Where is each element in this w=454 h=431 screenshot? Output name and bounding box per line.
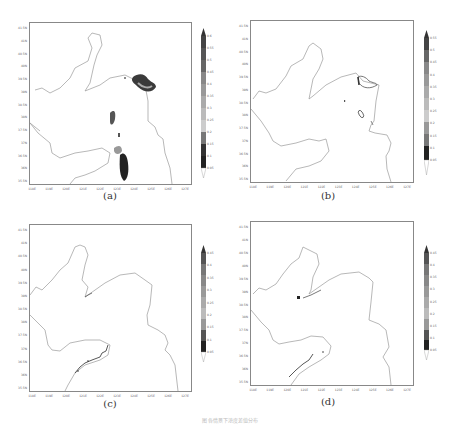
y-tick-label: 41N: [13, 39, 27, 43]
colorbar-label: 0.25: [430, 109, 437, 113]
colorbar-label: 0.25: [207, 301, 214, 305]
colorbar-label: 0.05: [430, 158, 437, 162]
y-tick-label: 37.5N: [13, 128, 27, 132]
y-tick-label: 36N: [234, 367, 248, 371]
x-tick-label: 124E: [350, 388, 362, 392]
x-tick-label: 125E: [367, 185, 379, 189]
y-tick-label: 35.5N: [234, 380, 248, 384]
y-tick-label: 38N: [234, 113, 248, 117]
x-tick-label: 121E: [77, 187, 89, 191]
y-tick-label: 40N: [13, 268, 27, 272]
coastline-map-c: [30, 225, 191, 391]
colorbar-label: 0.2: [430, 312, 435, 316]
x-tick-label: 122E: [94, 187, 106, 191]
x-tick-label: 127E: [401, 388, 413, 392]
y-tick-label: 37N: [13, 141, 27, 145]
x-tick-label: 119E: [264, 185, 276, 189]
y-tick-label: 37.5N: [13, 333, 27, 337]
y-tick-label: 37N: [234, 341, 248, 345]
colorbar-label: 0.45: [207, 70, 214, 74]
y-tick-label: 38N: [13, 115, 27, 119]
colorbar-label: 0.3: [430, 97, 435, 101]
x-tick-label: 126E: [384, 388, 396, 392]
x-tick-label: 122E: [315, 185, 327, 189]
colorbar-label: 0.05: [430, 348, 437, 352]
colorbar-label: 0.5: [430, 48, 435, 52]
colorbar-label: 0.15: [207, 325, 214, 329]
y-tick-label: 40N: [13, 64, 27, 68]
y-tick-label: 41N: [234, 238, 248, 242]
panel-label-b: (b): [308, 190, 348, 201]
y-tick-label: 36.5N: [234, 152, 248, 156]
y-tick-label: 36N: [13, 166, 27, 170]
y-tick-label: 37N: [234, 139, 248, 143]
y-tick-label: 35.5N: [234, 177, 248, 181]
colorbar-label: 0.4: [207, 263, 212, 267]
colorbar-label: 0.2: [207, 313, 212, 317]
colorbar-label: 0.35: [207, 276, 214, 280]
x-tick-label: 127E: [179, 187, 191, 191]
x-tick-label: 118E: [26, 187, 38, 191]
map-plot-a: [29, 22, 192, 185]
coastline-map-b: [251, 21, 413, 182]
y-tick-label: 38.5N: [234, 303, 248, 307]
x-tick-label: 124E: [350, 185, 362, 189]
y-tick-label: 36.5N: [13, 154, 27, 158]
x-tick-label: 126E: [384, 185, 396, 189]
panel-b: (b): [228, 0, 454, 210]
map-plot-b: [250, 20, 414, 183]
y-tick-label: 35.5N: [13, 386, 27, 390]
x-tick-label: 125E: [367, 388, 379, 392]
colorbar-label: 0.35: [207, 94, 214, 98]
colorbar-label: 0.6: [207, 34, 212, 38]
y-tick-label: 40.5N: [13, 254, 27, 258]
colorbar-label: 0.4: [430, 263, 435, 267]
y-tick-label: 40N: [234, 62, 248, 66]
y-tick-label: 40N: [234, 264, 248, 268]
colorbar-label: 0.2: [207, 130, 212, 134]
x-tick-label: 123E: [111, 187, 123, 191]
x-tick-label: 119E: [43, 187, 55, 191]
y-tick-label: 35.5N: [13, 179, 27, 183]
colorbar-label: 0.4: [430, 73, 435, 77]
y-tick-label: 37.5N: [234, 328, 248, 332]
x-tick-label: 126E: [162, 394, 174, 398]
y-tick-label: 38.5N: [13, 307, 27, 311]
y-tick-label: 37N: [13, 347, 27, 351]
panel-c: (c): [0, 210, 228, 410]
y-tick-label: 40.5N: [234, 50, 248, 54]
y-tick-label: 40.5N: [13, 52, 27, 56]
y-tick-label: 41N: [234, 37, 248, 41]
y-tick-label: 38N: [13, 320, 27, 324]
colorbar-label: 0.45: [430, 60, 437, 64]
x-tick-label: 125E: [145, 394, 157, 398]
coastline-map-a: [30, 23, 191, 184]
colorbar-label: 0.15: [430, 324, 437, 328]
y-tick-label: 39.5N: [13, 77, 27, 81]
colorbar-label: 0.45: [207, 251, 214, 255]
y-tick-label: 41.5N: [234, 225, 248, 229]
y-tick-label: 37.5N: [234, 126, 248, 130]
y-tick-label: 39.5N: [234, 277, 248, 281]
x-tick-label: 120E: [281, 388, 293, 392]
colorbar-d: [424, 245, 429, 360]
x-tick-label: 123E: [333, 388, 345, 392]
x-tick-label: 121E: [298, 388, 310, 392]
map-plot-d: [250, 221, 414, 386]
x-tick-label: 119E: [43, 394, 55, 398]
x-tick-label: 120E: [281, 185, 293, 189]
colorbar-label: 0.05: [207, 350, 214, 354]
colorbar-label: 0.05: [207, 166, 214, 170]
colorbar-label: 0.55: [430, 36, 437, 40]
panel-a: (a): [0, 0, 228, 210]
y-tick-label: 41.5N: [13, 228, 27, 232]
colorbar-label: 0.3: [207, 288, 212, 292]
colorbar-label: 0.1: [430, 146, 435, 150]
colorbar-label: 0.1: [430, 336, 435, 340]
y-tick-label: 41.5N: [234, 24, 248, 28]
x-tick-label: 119E: [264, 388, 276, 392]
x-tick-label: 118E: [26, 394, 38, 398]
y-tick-label: 38.5N: [13, 103, 27, 107]
colorbar-label: 0.35: [430, 275, 437, 279]
colorbar-b: [424, 30, 429, 175]
